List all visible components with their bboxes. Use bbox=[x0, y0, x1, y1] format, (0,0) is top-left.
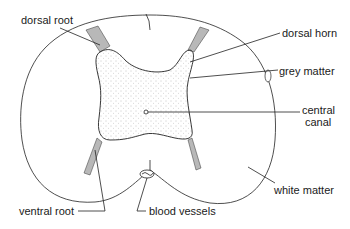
leader-blood-vessels bbox=[137, 178, 147, 211]
ventral-root-right bbox=[188, 138, 201, 170]
ventral-root-left bbox=[84, 138, 102, 175]
blood-vessel-lateral bbox=[265, 70, 271, 82]
central-canal bbox=[144, 110, 148, 114]
leader-white-matter bbox=[248, 167, 275, 183]
label-central: central bbox=[302, 104, 335, 116]
label-white-matter: white matter bbox=[273, 184, 334, 196]
label-canal: canal bbox=[305, 116, 331, 128]
label-blood-vessels: blood vessels bbox=[149, 205, 216, 217]
grey-matter bbox=[96, 50, 194, 140]
label-dorsal-root: dorsal root bbox=[21, 14, 73, 26]
label-ventral-root: ventral root bbox=[19, 205, 74, 217]
dorsal-root-left bbox=[86, 26, 110, 52]
dorsal-root-right bbox=[188, 27, 209, 52]
label-dorsal-horn: dorsal horn bbox=[282, 27, 337, 39]
spinal-cord-diagram: dorsal root dorsal horn grey matter cent… bbox=[0, 0, 350, 229]
label-grey-matter: grey matter bbox=[279, 65, 335, 77]
dorsal-fissure bbox=[146, 14, 150, 30]
